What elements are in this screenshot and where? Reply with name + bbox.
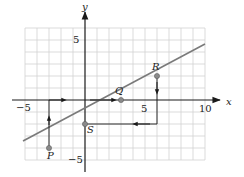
y-axis-label: y bbox=[81, 1, 88, 12]
y-tick-5: 5 bbox=[73, 34, 79, 45]
x-tick-10: 10 bbox=[199, 103, 212, 114]
x-tick-neg5: −5 bbox=[16, 102, 31, 113]
y-tick-neg5: −5 bbox=[68, 154, 83, 165]
label-q: Q bbox=[115, 85, 123, 96]
graph-line bbox=[23, 44, 205, 141]
point-r bbox=[154, 73, 159, 78]
label-p: P bbox=[46, 150, 54, 161]
label-r: R bbox=[151, 61, 160, 72]
coordinate-plane: y x 5 −5 −5 5 10 P S Q R bbox=[0, 0, 244, 177]
x-axis-label: x bbox=[226, 96, 232, 107]
x-tick-5: 5 bbox=[141, 103, 147, 114]
point-q bbox=[118, 97, 123, 102]
label-s: S bbox=[87, 124, 94, 135]
